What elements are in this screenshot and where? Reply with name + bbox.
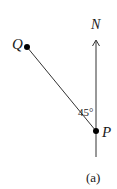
north-label: N xyxy=(90,17,101,32)
point-p-dot xyxy=(93,128,99,134)
angle-label: 45° xyxy=(78,106,93,118)
line-pq xyxy=(27,47,96,131)
point-q-label: Q xyxy=(12,36,23,52)
point-q-dot xyxy=(24,44,30,50)
point-p-label: P xyxy=(101,124,111,140)
caption-label: (a) xyxy=(86,170,100,185)
bearing-diagram: N Q P 45° (a) xyxy=(0,0,117,189)
